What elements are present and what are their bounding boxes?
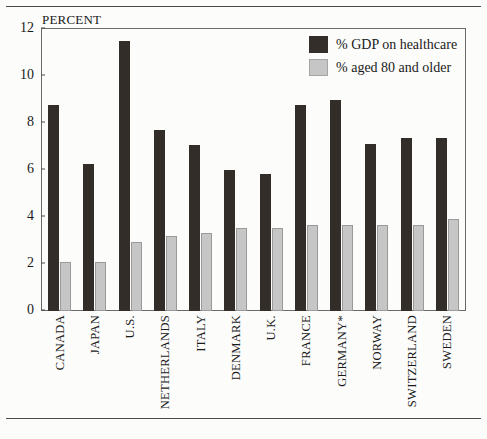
bar-gdp-healthcare xyxy=(260,174,271,311)
chart-page: PERCENT 024681012 CANADAJAPANU.S.NETHERL… xyxy=(0,0,487,439)
x-axis-category-label: JAPAN xyxy=(87,315,102,354)
x-axis-category-label: ITALY xyxy=(193,315,208,352)
bar-gdp-healthcare xyxy=(330,100,341,312)
x-axis-label-cell: SWEDEN xyxy=(430,313,465,413)
legend-swatch-aged80-icon xyxy=(309,59,328,76)
bar-gdp-healthcare xyxy=(189,145,200,311)
y-axis-tick-mark xyxy=(41,216,45,217)
y-axis: 024681012 xyxy=(0,28,41,311)
bar-gdp-healthcare xyxy=(365,144,376,311)
x-axis-category-label: FRANCE xyxy=(299,315,314,366)
legend-item: % GDP on healthcare xyxy=(309,36,457,53)
x-axis-category-label: GERMANY* xyxy=(334,315,349,387)
bar-aged-80-plus xyxy=(377,225,388,311)
bar-group xyxy=(113,29,148,311)
bar-gdp-healthcare xyxy=(83,164,94,311)
x-axis-category-label: NORWAY xyxy=(369,315,384,370)
chart-legend: % GDP on healthcare% aged 80 and older xyxy=(309,36,457,76)
x-axis-label-cell: JAPAN xyxy=(77,313,112,413)
x-axis-label-cell: NETHERLANDS xyxy=(148,313,183,413)
x-axis-label-cell: CANADA xyxy=(42,313,77,413)
x-axis-label-cell: DENMARK xyxy=(218,313,253,413)
y-axis-tick-label: 8 xyxy=(27,115,34,129)
x-axis-category-label: SWITZERLAND xyxy=(405,315,420,407)
y-axis-tick-label: 4 xyxy=(27,209,34,223)
y-axis-tick-mark xyxy=(41,122,45,123)
bar-aged-80-plus xyxy=(60,262,71,311)
bar-group xyxy=(218,29,253,311)
legend-label: % GDP on healthcare xyxy=(336,37,457,53)
x-axis-category-label: CANADA xyxy=(52,315,67,370)
x-axis-labels: CANADAJAPANU.S.NETHERLANDSITALYDENMARKU.… xyxy=(42,313,465,413)
y-axis-tick-label: 0 xyxy=(27,303,34,317)
bar-aged-80-plus xyxy=(448,219,459,311)
bar-gdp-healthcare xyxy=(154,130,165,311)
bar-aged-80-plus xyxy=(166,236,177,311)
y-axis-tick-mark xyxy=(41,28,45,29)
y-axis-tick-mark xyxy=(41,263,45,264)
y-axis-unit-label: PERCENT xyxy=(42,12,101,28)
x-axis-label-cell: U.S. xyxy=(113,313,148,413)
bar-group xyxy=(254,29,289,311)
bar-aged-80-plus xyxy=(342,225,353,311)
bar-aged-80-plus xyxy=(236,228,247,311)
x-axis-category-label: SWEDEN xyxy=(440,315,455,369)
bottom-divider-rule xyxy=(6,418,481,419)
legend-label: % aged 80 and older xyxy=(336,60,451,76)
bar-group xyxy=(42,29,77,311)
x-axis-label-cell: GERMANY* xyxy=(324,313,359,413)
bar-gdp-healthcare xyxy=(295,105,306,311)
x-axis-category-label: NETHERLANDS xyxy=(158,315,173,409)
bar-gdp-healthcare xyxy=(48,105,59,311)
bar-gdp-healthcare xyxy=(436,138,447,311)
x-axis-category-label: U.S. xyxy=(123,315,138,338)
bar-aged-80-plus xyxy=(307,225,318,311)
x-axis-label-cell: U.K. xyxy=(254,313,289,413)
bar-aged-80-plus xyxy=(131,242,142,311)
bar-group xyxy=(183,29,218,311)
bar-gdp-healthcare xyxy=(401,138,412,311)
bar-gdp-healthcare xyxy=(119,41,130,311)
bar-aged-80-plus xyxy=(272,228,283,311)
x-axis-category-label: U.K. xyxy=(264,315,279,341)
bar-aged-80-plus xyxy=(95,262,106,311)
x-axis-category-label: DENMARK xyxy=(228,315,243,380)
top-divider-rule xyxy=(6,6,481,7)
legend-swatch-gdp-icon xyxy=(309,36,328,53)
bar-group xyxy=(77,29,112,311)
x-axis-label-cell: ITALY xyxy=(183,313,218,413)
y-axis-tick-mark xyxy=(41,75,45,76)
bar-gdp-healthcare xyxy=(224,170,235,311)
y-axis-tick-label: 2 xyxy=(27,256,34,270)
bar-group xyxy=(148,29,183,311)
x-axis-label-cell: SWITZERLAND xyxy=(395,313,430,413)
bar-aged-80-plus xyxy=(413,225,424,311)
x-axis-label-cell: NORWAY xyxy=(359,313,394,413)
y-axis-tick-mark xyxy=(41,310,45,311)
y-axis-tick-mark xyxy=(41,169,45,170)
y-axis-tick-label: 12 xyxy=(20,21,34,35)
y-axis-tick-label: 6 xyxy=(27,162,34,176)
x-axis-label-cell: FRANCE xyxy=(289,313,324,413)
bar-aged-80-plus xyxy=(201,233,212,311)
y-axis-tick-label: 10 xyxy=(20,68,34,82)
legend-item: % aged 80 and older xyxy=(309,59,457,76)
